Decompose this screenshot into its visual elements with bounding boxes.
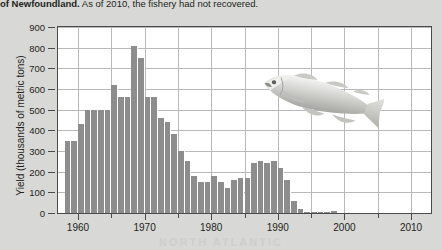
y-axis-tick-label: 800 <box>29 42 45 53</box>
bar <box>85 110 92 213</box>
bar <box>65 141 72 213</box>
figure-caption: of Newfoundland. As of 2010, the fishery… <box>0 0 442 10</box>
y-axis-tick-label: 300 <box>29 146 45 157</box>
bar <box>311 212 318 213</box>
bar <box>98 110 105 213</box>
x-axis-tick-mark <box>111 214 112 218</box>
y-axis-tick-label: 0 <box>40 208 45 219</box>
x-axis-tick-mark <box>344 214 345 220</box>
bar <box>191 176 198 213</box>
bar <box>118 97 125 213</box>
x-axis-tick-label: 2010 <box>400 222 422 233</box>
y-axis-tick-label: 700 <box>29 63 45 74</box>
bar <box>105 110 112 213</box>
x-axis-tick-mark <box>145 214 146 220</box>
bar <box>205 182 212 213</box>
y-axis-tick-mark <box>48 48 55 49</box>
y-axis-tick-label: 900 <box>29 22 45 33</box>
plot-area <box>57 26 432 214</box>
x-axis-tick-mark <box>378 214 379 218</box>
bar <box>185 161 192 213</box>
bar <box>165 122 172 213</box>
bar <box>158 118 165 213</box>
bar-series-layer <box>58 27 431 213</box>
x-axis-tick-label: 2000 <box>333 222 355 233</box>
y-axis-tick-label: 100 <box>29 187 45 198</box>
bar <box>178 151 185 213</box>
bar <box>264 163 271 213</box>
bar <box>125 97 132 213</box>
bar <box>304 212 311 213</box>
bar <box>324 212 331 213</box>
bar <box>71 141 78 213</box>
y-axis-tick-label: 500 <box>29 104 45 115</box>
y-axis-tick-mark <box>48 68 55 69</box>
bar <box>245 178 252 213</box>
y-axis-tick-label: 200 <box>29 166 45 177</box>
y-axis-tick-mark <box>48 151 55 152</box>
bar <box>271 161 278 213</box>
watermark-text: NORTH ATLANTIC <box>0 236 442 248</box>
bar <box>198 182 205 213</box>
bar <box>225 188 232 213</box>
bar <box>111 85 118 213</box>
x-axis-tick-mark <box>411 214 412 220</box>
bar <box>284 180 291 213</box>
y-axis-tick-mark <box>48 130 55 131</box>
bar <box>258 161 265 213</box>
y-axis: Yield (thousands of metric tons) 9008007… <box>0 26 57 214</box>
y-axis-tick-mark <box>48 27 55 28</box>
y-axis-title: Yield (thousands of metric tons) <box>15 31 26 221</box>
bar <box>171 134 178 213</box>
bar <box>91 110 98 213</box>
y-axis-tick-mark <box>48 192 55 193</box>
bar <box>318 212 325 213</box>
bar <box>298 209 305 213</box>
bar <box>251 163 258 213</box>
bar <box>331 211 338 213</box>
bar <box>78 124 85 213</box>
x-axis-tick-label: 1970 <box>133 222 155 233</box>
x-axis-tick-label: 1980 <box>200 222 222 233</box>
y-axis-tick-mark <box>48 172 55 173</box>
bar <box>138 58 145 213</box>
x-axis-tick-mark <box>278 214 279 220</box>
bar <box>231 180 238 213</box>
y-axis-tick-label: 600 <box>29 84 45 95</box>
bar <box>131 46 138 213</box>
bar <box>211 176 218 213</box>
x-axis-tick-mark <box>311 214 312 218</box>
caption-rest-fragment: As of 2010, the fishery had not recovere… <box>80 0 259 9</box>
bar <box>218 182 225 213</box>
caption-bold-fragment: of Newfoundland. <box>0 0 80 9</box>
bar <box>278 168 285 213</box>
bar <box>291 201 298 213</box>
y-axis-tick-mark <box>48 213 55 214</box>
y-axis-tick-label: 400 <box>29 125 45 136</box>
x-axis-tick-label: 1960 <box>67 222 89 233</box>
x-axis-tick-mark <box>178 214 179 218</box>
x-axis-tick-label: 1990 <box>267 222 289 233</box>
x-axis-tick-mark <box>211 214 212 220</box>
chart-figure: Yield (thousands of metric tons) 9008007… <box>0 12 442 238</box>
bar <box>151 97 158 213</box>
bar <box>238 178 245 213</box>
bar <box>145 97 152 213</box>
x-axis-tick-mark <box>78 214 79 220</box>
y-axis-tick-mark <box>48 110 55 111</box>
y-axis-tick-mark <box>48 89 55 90</box>
x-axis-tick-mark <box>245 214 246 218</box>
